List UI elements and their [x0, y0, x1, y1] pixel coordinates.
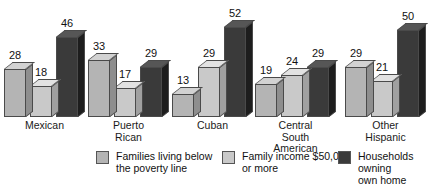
- bar-value-label: 33: [93, 40, 105, 52]
- bar: 52: [224, 27, 246, 117]
- bar-value-label: 21: [376, 61, 388, 73]
- bar: 18: [30, 86, 52, 117]
- bar-value-label: 28: [9, 49, 21, 61]
- bar-front-face: [371, 81, 393, 117]
- bar-side-face: [220, 62, 227, 117]
- bar-front-face: [140, 67, 162, 117]
- bar-front-face: [345, 67, 367, 117]
- bar-value-label: 13: [177, 74, 189, 86]
- bar-side-face: [393, 76, 400, 117]
- plot-area: 281846Mexican331729Puerto Rican132952Cub…: [0, 0, 442, 130]
- bar-side-face: [329, 62, 336, 117]
- bar: 29: [198, 67, 220, 117]
- bar-side-face: [246, 22, 253, 117]
- category-label: Cuban: [197, 120, 228, 132]
- bar-group: 192429Central South American: [255, 0, 336, 130]
- bar-value-label: 24: [286, 55, 298, 67]
- legend-item-label: Families living below the poverty line: [116, 150, 212, 174]
- bar-front-face: [307, 67, 329, 117]
- bar-side-face: [303, 70, 310, 117]
- bar: 24: [281, 75, 303, 117]
- bar-front-face: [30, 86, 52, 117]
- legend-item-poverty: Families living below the poverty line: [96, 150, 212, 174]
- bar-value-label: 17: [119, 68, 131, 80]
- bar-value-label: 29: [145, 47, 157, 59]
- bar-chart: 281846Mexican331729Puerto Rican132952Cub…: [0, 0, 442, 189]
- bar-value-label: 29: [203, 47, 215, 59]
- legend-item-label: Family income $50,000 or more: [242, 150, 351, 174]
- bar-front-face: [114, 88, 136, 117]
- bar-front-face: [255, 84, 277, 117]
- bar-side-face: [277, 79, 284, 117]
- bar-value-label: 18: [35, 66, 47, 78]
- bar-front-face: [198, 67, 220, 117]
- bar-value-label: 52: [229, 7, 241, 19]
- bar: 29: [307, 67, 329, 117]
- bar: 28: [4, 69, 26, 117]
- bar-value-label: 29: [350, 47, 362, 59]
- bar: 21: [371, 81, 393, 117]
- bar: 19: [255, 84, 277, 117]
- legend-item-income: Family income $50,000 or more: [222, 150, 351, 174]
- bar-group: 132952Cuban: [172, 0, 253, 130]
- legend-item-homeowners: Households owning own home: [338, 150, 442, 186]
- bar-front-face: [88, 60, 110, 117]
- category-label: Other Hispanic: [365, 120, 405, 143]
- legend-swatch-icon: [222, 151, 235, 164]
- bar-side-face: [26, 64, 33, 117]
- bar-side-face: [110, 55, 117, 117]
- bar-side-face: [419, 25, 426, 117]
- bar: 13: [172, 94, 194, 117]
- bar-front-face: [4, 69, 26, 117]
- bar-value-label: 50: [402, 10, 414, 22]
- bar-side-face: [136, 83, 143, 117]
- bar-front-face: [172, 94, 194, 117]
- bar: 17: [114, 88, 136, 117]
- bar-side-face: [78, 32, 85, 117]
- bar-value-label: 19: [260, 64, 272, 76]
- legend-swatch-icon: [96, 151, 109, 164]
- legend-swatch-icon: [338, 151, 351, 164]
- category-label: Mexican: [25, 120, 64, 132]
- bar-value-label: 29: [312, 47, 324, 59]
- bar-front-face: [281, 75, 303, 117]
- bar: 46: [56, 37, 78, 117]
- bar: 29: [345, 67, 367, 117]
- bar-side-face: [162, 62, 169, 117]
- bar-side-face: [367, 62, 374, 117]
- bar-side-face: [52, 81, 59, 117]
- bar-front-face: [56, 37, 78, 117]
- bar: 29: [140, 67, 162, 117]
- bar-group: 331729Puerto Rican: [88, 0, 169, 130]
- legend-item-label: Households owning own home: [358, 150, 442, 186]
- chart-legend: Families living below the poverty line F…: [0, 150, 442, 189]
- bar-group: 281846Mexican: [4, 0, 85, 130]
- category-label: Puerto Rican: [108, 120, 149, 143]
- bar-value-label: 46: [61, 17, 73, 29]
- bar-front-face: [224, 27, 246, 117]
- bar-group: 292150Other Hispanic: [345, 0, 426, 130]
- bar: 33: [88, 60, 110, 117]
